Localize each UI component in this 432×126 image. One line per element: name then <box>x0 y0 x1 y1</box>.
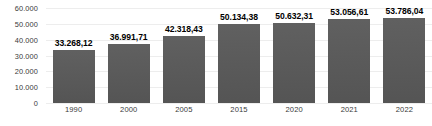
bars-layer: 33.268,1236.991,7142.318,4350.134,3850.6… <box>46 8 432 103</box>
bar-value-label: 33.268,12 <box>55 38 93 48</box>
bar-value-label: 53.786,04 <box>386 6 424 16</box>
bar-group: 50.134,38 <box>211 8 266 103</box>
x-axis-tick-label: 2000 <box>101 105 156 123</box>
bar-value-label: 50.134,38 <box>220 12 258 22</box>
y-axis-tick-label: 10.000 <box>15 83 38 92</box>
y-axis-tick-label: 40.000 <box>15 35 38 44</box>
gridline <box>46 103 432 104</box>
x-axis-tick-label: 2022 <box>377 105 432 123</box>
bar <box>218 24 260 103</box>
bar <box>53 50 95 103</box>
bar <box>163 36 205 103</box>
y-axis-tick-label: 60.000 <box>15 4 38 13</box>
bar <box>328 19 370 103</box>
bar-value-label: 53.056,61 <box>330 7 368 17</box>
y-axis-tick-label: 0 <box>34 99 38 108</box>
x-axis: 1990200020052015202020212022 <box>46 105 432 123</box>
bar-value-label: 50.632,31 <box>275 11 313 21</box>
bar-value-label: 42.318,43 <box>165 24 203 34</box>
y-axis-tick-label: 50.000 <box>15 19 38 28</box>
plot-area: 33.268,1236.991,7142.318,4350.134,3850.6… <box>46 8 432 103</box>
bar <box>108 44 150 103</box>
x-axis-tick-label: 2020 <box>267 105 322 123</box>
bar-group: 33.268,12 <box>46 8 101 103</box>
bar <box>273 23 315 103</box>
x-axis-tick-label: 1990 <box>46 105 101 123</box>
x-axis-tick-label: 2005 <box>156 105 211 123</box>
bar-group: 53.786,04 <box>377 8 432 103</box>
bar-group: 36.991,71 <box>101 8 156 103</box>
bar-value-label: 36.991,71 <box>110 32 148 42</box>
y-axis-tick-label: 30.000 <box>15 51 38 60</box>
bar-group: 42.318,43 <box>156 8 211 103</box>
bar <box>383 18 425 103</box>
x-axis-tick-label: 2015 <box>211 105 266 123</box>
y-axis-tick-label: 20.000 <box>15 67 38 76</box>
x-axis-tick-label: 2021 <box>322 105 377 123</box>
bar-chart: 60.00050.00040.00030.00020.00010.0000 33… <box>0 0 432 126</box>
y-axis: 60.00050.00040.00030.00020.00010.0000 <box>0 0 44 126</box>
bar-group: 53.056,61 <box>322 8 377 103</box>
bar-group: 50.632,31 <box>267 8 322 103</box>
